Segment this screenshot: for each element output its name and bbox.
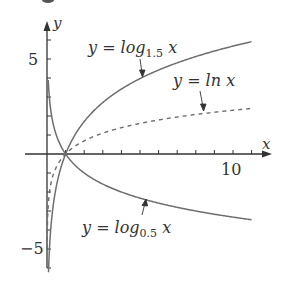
y-axis-label: y bbox=[52, 14, 62, 32]
label-log-1-5: y = log1.5 x bbox=[87, 38, 177, 60]
y-tick-label-neg5: −5 bbox=[20, 239, 44, 258]
y-axis-arrow-icon bbox=[44, 21, 51, 31]
label-log15-sub: 1.5 bbox=[146, 47, 164, 60]
label-log15-suffix: x bbox=[163, 38, 177, 57]
label-log05-suffix: x bbox=[157, 218, 171, 237]
x-tick-label-10: 10 bbox=[221, 160, 241, 179]
x-axis-label: x bbox=[262, 135, 271, 153]
log-functions-chart: y x 5 −5 10 y = log1.5 x y = ln x y = lo… bbox=[0, 0, 282, 285]
label-log-0-5: y = log0.5 x bbox=[81, 218, 171, 240]
label-log05-sub: 0.5 bbox=[140, 227, 158, 240]
label-log05-prefix: y = log bbox=[81, 218, 140, 237]
label-log15-prefix: y = log bbox=[87, 38, 146, 57]
cropped-label-mark bbox=[42, 0, 54, 3]
curve-log-0-5 bbox=[48, 80, 251, 220]
label-ln: y = ln x bbox=[172, 71, 235, 90]
y-tick-label-5: 5 bbox=[28, 50, 38, 69]
